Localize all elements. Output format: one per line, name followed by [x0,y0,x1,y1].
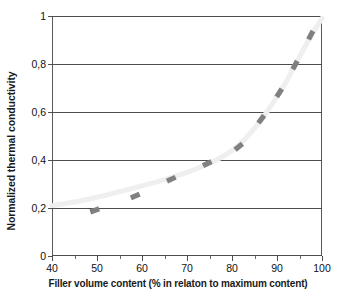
x-tick-label: 80 [212,262,252,274]
x-tick-mark-minor [75,256,76,259]
x-tick-label: 100 [302,262,338,274]
y-tick-label: 0,4 [6,154,46,166]
x-tick-mark [52,256,53,261]
y-tick-label: 0,8 [6,58,46,70]
x-tick-label: 90 [257,262,297,274]
x-tick-mark-minor [165,256,166,259]
x-tick-mark [97,256,98,261]
plot-area: 405060708090100 [52,16,322,256]
x-tick-label: 70 [167,262,207,274]
x-tick-mark-minor [300,256,301,259]
x-tick-mark-minor [210,256,211,259]
x-tick-mark [187,256,188,261]
chart-figure: Normalized thermal conductivity 00,20,40… [0,0,338,302]
chart-data-layer [52,16,322,256]
data-point-marker [89,206,100,214]
x-axis-title: Filler volume content (% in relaton to m… [22,278,334,289]
y-tick-label: 0,2 [6,202,46,214]
x-tick-mark-minor [255,256,256,259]
y-tick-label: 0 [6,250,46,262]
y-tick-label: 1 [6,10,46,22]
y-tick-label: 0,6 [6,106,46,118]
x-tick-mark [277,256,278,261]
data-point-markers [89,30,315,215]
trend-line [52,18,322,205]
data-point-marker [130,192,141,200]
x-tick-mark [322,256,323,261]
x-tick-mark [232,256,233,261]
x-tick-mark [142,256,143,261]
x-tick-mark-minor [120,256,121,259]
x-tick-label: 60 [122,262,162,274]
trend-line-path [52,18,322,205]
x-tick-label: 40 [32,262,72,274]
x-tick-label: 50 [77,262,117,274]
